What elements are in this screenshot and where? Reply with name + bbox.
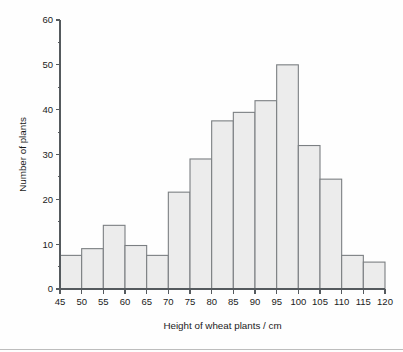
y-axis-tick-label: 60 — [42, 14, 53, 25]
y-axis-tick-label: 20 — [42, 194, 53, 205]
histogram-bar — [320, 179, 342, 289]
histogram-bar — [298, 146, 320, 289]
x-axis-tick-label: 45 — [55, 296, 66, 307]
x-axis-tick-label: 85 — [228, 296, 239, 307]
x-axis-tick-label: 100 — [290, 296, 306, 307]
histogram-bar — [60, 255, 82, 289]
x-axis-tick-label: 80 — [206, 296, 217, 307]
x-axis-tick-label: 95 — [271, 296, 282, 307]
y-axis-tick-label: 10 — [42, 239, 53, 250]
y-axis-tick-label: 30 — [42, 149, 53, 160]
histogram-bar — [147, 255, 169, 289]
x-axis-tick-label: 75 — [185, 296, 196, 307]
x-axis-tick-label: 110 — [334, 296, 349, 307]
histogram-bar — [82, 249, 104, 289]
histogram-bar — [277, 65, 299, 289]
histogram-bar — [342, 255, 364, 289]
page-divider-rule — [0, 349, 403, 350]
y-axis-tick-label: 40 — [42, 104, 53, 115]
chart-canvas: 0102030405060455055606570758085909510010… — [0, 0, 403, 352]
x-axis-tick-label: 90 — [250, 296, 261, 307]
histogram-bar — [168, 192, 190, 289]
x-axis-tick-label: 60 — [120, 296, 131, 307]
histogram-bar — [255, 101, 277, 289]
histogram-chart: 0102030405060455055606570758085909510010… — [0, 0, 403, 352]
y-axis-tick-label: 0 — [48, 283, 53, 294]
x-axis-tick-label: 115 — [356, 296, 371, 307]
histogram-bar — [125, 246, 147, 289]
x-axis-tick-label: 65 — [141, 296, 152, 307]
y-axis-title: Number of plants — [17, 117, 28, 192]
histogram-bar — [363, 262, 385, 289]
x-axis-tick-label: 70 — [163, 296, 174, 307]
histogram-bar — [233, 112, 255, 289]
x-axis-tick-label: 105 — [312, 296, 328, 307]
histogram-bar — [190, 159, 212, 289]
x-axis-title: Height of wheat plants / cm — [163, 320, 281, 331]
y-axis-tick-label: 50 — [42, 59, 53, 70]
x-axis-tick-label: 120 — [377, 296, 393, 307]
histogram-bar — [212, 121, 234, 289]
x-axis-tick-label: 50 — [76, 296, 87, 307]
histogram-bar — [103, 225, 125, 289]
x-axis-tick-label: 55 — [98, 296, 109, 307]
